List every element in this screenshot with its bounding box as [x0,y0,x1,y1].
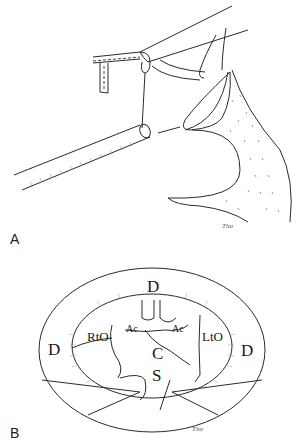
artist-signature-a: Tho [222,222,233,230]
label-d-top: D [147,278,159,295]
figure-illustration [0,0,302,444]
label-c: C [152,345,163,362]
label-ac-right: Ac [172,324,184,334]
label-d-right: D [241,342,253,359]
panel-label-a: A [10,231,19,247]
label-s: S [152,367,161,384]
panel-label-b: B [10,425,19,441]
label-rto: RtO [87,330,109,343]
label-lto: LtO [202,330,223,343]
label-ac-left: Ac [126,324,138,334]
label-d-left: D [48,341,60,358]
panel-a-drawing [14,6,291,222]
artist-signature-b: Tho [192,425,203,433]
